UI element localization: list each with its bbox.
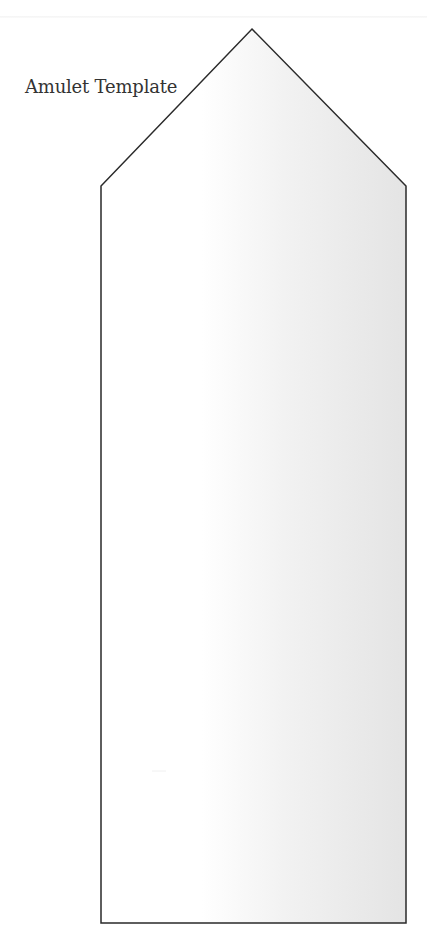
template-title: Amulet Template (25, 76, 177, 98)
amulet-template-shape (0, 0, 427, 939)
amulet-outline (101, 29, 406, 923)
